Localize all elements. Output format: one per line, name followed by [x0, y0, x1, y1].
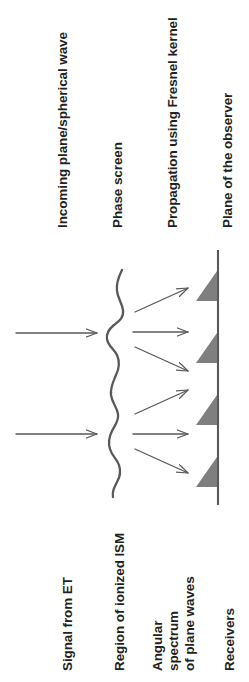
incoming-arrow-group: [16, 333, 97, 434]
scattered-arrow-4: [135, 390, 188, 414]
receiver-2: [196, 333, 217, 363]
figure-canvas: Incoming plane/spherical wave Phase scre…: [0, 0, 249, 682]
scattered-arrow-group: [133, 288, 188, 473]
phase-screen-squiggle: [107, 270, 123, 497]
receiver-1: [196, 271, 217, 301]
scattered-arrow-3: [135, 347, 188, 371]
receiver-3: [196, 395, 217, 425]
scattered-arrow-6: [135, 449, 188, 473]
scattered-arrow-1: [135, 288, 188, 312]
propagation-diagram: [0, 0, 249, 682]
receiver-group: [196, 271, 217, 487]
receiver-4: [196, 457, 217, 487]
